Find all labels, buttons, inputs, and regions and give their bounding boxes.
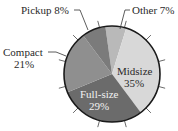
tick-mark: [158, 60, 165, 62]
tick-mark: [59, 60, 66, 62]
fullsize-label-pct: 29%: [89, 100, 109, 112]
tick-mark: [98, 21, 100, 28]
midsize-label-pct: 35%: [124, 77, 144, 89]
tick-mark: [146, 108, 151, 113]
compact-label-pct: 21%: [14, 58, 34, 70]
midsize-label-name: Midsize: [117, 65, 153, 77]
tick-mark: [59, 86, 66, 88]
tick-mark: [73, 108, 78, 113]
pickup-leader-line: [74, 10, 88, 30]
tick-mark: [146, 35, 151, 40]
tick-mark: [98, 120, 100, 127]
other-label: Other 7%: [132, 4, 174, 16]
tick-mark: [124, 21, 126, 28]
tick-mark: [124, 120, 126, 127]
compact-leader-line: [48, 52, 66, 56]
pickup-label: Pickup 8%: [21, 4, 69, 16]
fullsize-label-name: Full-size: [80, 88, 119, 100]
compact-label-name: Compact: [3, 46, 43, 58]
tick-mark: [73, 35, 78, 40]
pie-chart: Pickup 8% Other 7% Compact 21% Midsize 3…: [0, 0, 178, 131]
tick-mark: [158, 86, 165, 88]
